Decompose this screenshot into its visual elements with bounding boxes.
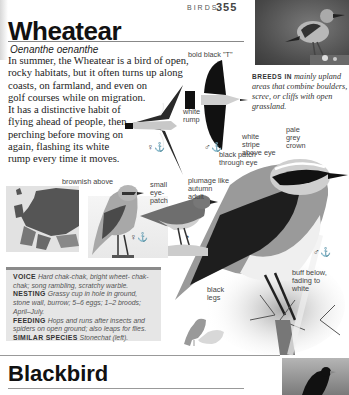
- label-black-legs: black legs: [207, 286, 231, 302]
- label-buff-below: buff below, fading to white: [292, 269, 328, 293]
- male-main-symbol: ♂⚓: [313, 247, 331, 257]
- female-flight-illustration: [125, 85, 185, 175]
- description-line: In summer, the Wheatear is a bird of ope…: [8, 55, 180, 67]
- stonechat-silhouette-icon: [180, 310, 230, 350]
- running-head: BIRDS: [187, 4, 218, 11]
- nesting-entry: NESTING Grassy cup in hole in ground, st…: [13, 290, 155, 316]
- breeds-note: BREEDS IN mainly upland areas that combi…: [252, 72, 348, 112]
- blackbird-photo: [282, 358, 349, 395]
- label-plumage-autumn: plumage like autumn adult: [188, 177, 230, 201]
- blackbird-photo-icon: [282, 358, 349, 395]
- label-brownish-above: brownish above: [62, 178, 113, 186]
- wheatear-photo: [255, 0, 349, 65]
- feeding-entry: FEEDING Hops and runs after insects and …: [13, 317, 155, 334]
- juvenile-symbol: ◔: [184, 232, 189, 242]
- voice-label: VOICE: [13, 273, 36, 280]
- section-divider: [0, 355, 280, 356]
- latin-name: Oenanthe oenanthe: [10, 44, 98, 55]
- female-symbol: ♀⚓: [147, 142, 165, 152]
- voice-entry: VOICE Hard chak-chak, bright wheet- chak…: [13, 273, 155, 290]
- nesting-label: NESTING: [13, 290, 46, 297]
- europe-map-icon: [6, 186, 79, 252]
- species-title: Wheatear: [8, 16, 121, 47]
- label-small-eye-patch: small eye-patch: [150, 181, 180, 205]
- info-box: VOICE Hard chak-chak, bright wheet- chak…: [6, 267, 161, 341]
- next-title-rule: [8, 388, 244, 389]
- label-pale-grey-crown: pale grey crown: [286, 126, 316, 150]
- label-bold-black-t: bold black "T": [188, 51, 233, 59]
- breeds-label: BREEDS IN: [252, 73, 292, 80]
- page-gutter-shadow: [0, 0, 8, 60]
- perched-bird-photo-icon: [255, 0, 349, 65]
- title-rule: [8, 41, 244, 42]
- similar-species-text: Stonechat (left).: [80, 334, 129, 341]
- label-black-patch: black patch through eye: [219, 151, 259, 167]
- feeding-label: FEEDING: [13, 317, 46, 324]
- distribution-map: [6, 186, 79, 252]
- next-species-title: Blackbird: [8, 361, 108, 387]
- similar-species-label: SIMILAR SPECIES: [13, 334, 78, 341]
- similar-species-entry: SIMILAR SPECIES Stonechat (left).: [13, 334, 155, 343]
- label-white-rump: white rump: [183, 108, 213, 124]
- page-number: 355: [216, 1, 237, 13]
- description-line: rocky habitats, but it often turns up al…: [8, 67, 180, 79]
